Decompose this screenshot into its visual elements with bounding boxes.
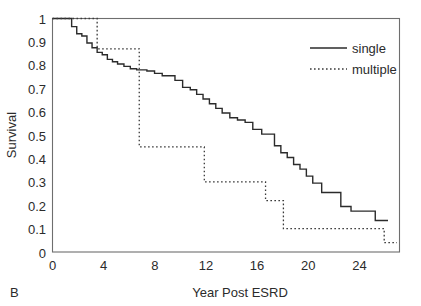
x-axis-title: Year Post ESRD [192, 285, 288, 300]
x-tick-label: 20 [301, 258, 315, 273]
x-tick-label: 24 [352, 258, 366, 273]
series-line-multiple [53, 19, 397, 243]
x-tick-label: 0 [49, 258, 56, 273]
chart-legend: single multiple [310, 41, 397, 77]
legend-label-multiple: multiple [352, 62, 397, 77]
y-tick-label: 0.8 [28, 58, 46, 73]
y-tick-label: 0.9 [28, 35, 46, 50]
x-tick-label: 4 [100, 258, 107, 273]
legend-label-single: single [352, 41, 386, 56]
survival-figure: 1 0.9 0.8 0.7 0.6 0.5 0.4 0.3 0.2 0.1 0 … [0, 0, 421, 306]
x-tick-label: 12 [199, 258, 213, 273]
y-tick-label: 0.6 [28, 105, 46, 120]
plot-area-frame [53, 19, 400, 253]
y-axis-title: Survival [4, 112, 19, 158]
kaplan-meier-chart: 1 0.9 0.8 0.7 0.6 0.5 0.4 0.3 0.2 0.1 0 … [0, 0, 421, 306]
y-tick-label: 1 [39, 12, 46, 27]
y-tick-label: 0.1 [28, 222, 46, 237]
x-axis-tick-labels: 0 4 8 12 16 20 24 [49, 258, 367, 273]
panel-label: B [10, 285, 19, 300]
y-tick-label: 0.3 [28, 175, 46, 190]
y-tick-label: 0.4 [28, 152, 46, 167]
y-tick-label: 0.5 [28, 129, 46, 144]
y-tick-label: 0.2 [28, 199, 46, 214]
x-tick-label: 8 [151, 258, 158, 273]
y-tick-label: 0.7 [28, 82, 46, 97]
y-axis-tick-labels: 1 0.9 0.8 0.7 0.6 0.5 0.4 0.3 0.2 0.1 0 [28, 12, 46, 261]
x-tick-label: 16 [250, 258, 264, 273]
y-tick-label: 0 [39, 246, 46, 261]
